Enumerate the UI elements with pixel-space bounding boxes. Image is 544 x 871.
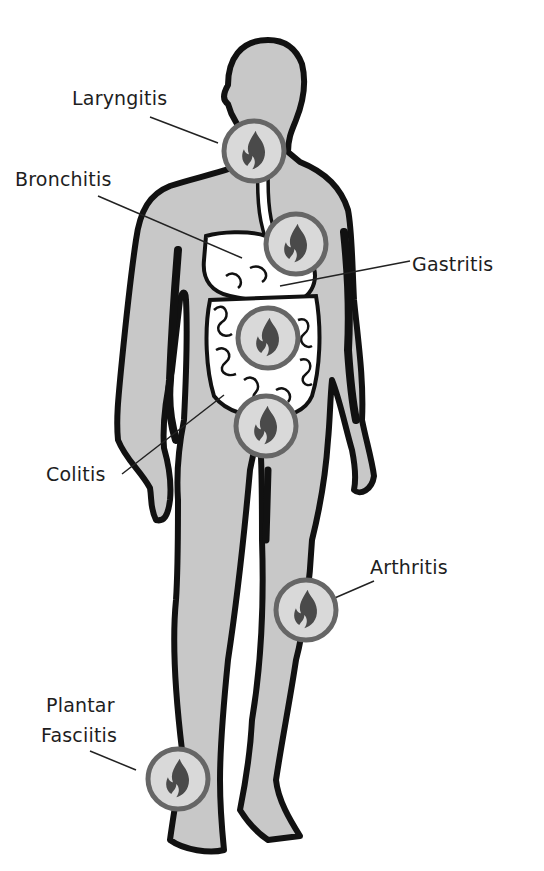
marker-arthritis	[276, 580, 336, 640]
label-bronchitis: Bronchitis	[15, 167, 112, 191]
marker-colitis	[236, 396, 296, 456]
label-laryngitis: Laryngitis	[72, 86, 167, 110]
label-arthritis: Arthritis	[370, 555, 448, 579]
marker-plantar-fasciitis	[148, 749, 208, 809]
marker-bronchitis-gastritis	[266, 214, 326, 274]
marker-intestine	[238, 308, 298, 368]
marker-laryngitis	[224, 121, 284, 181]
label-gastritis: Gastritis	[412, 252, 493, 276]
label-colitis: Colitis	[46, 462, 105, 486]
label-plantar: Plantar	[46, 693, 115, 717]
label-fasciitis: Fasciitis	[41, 723, 117, 747]
